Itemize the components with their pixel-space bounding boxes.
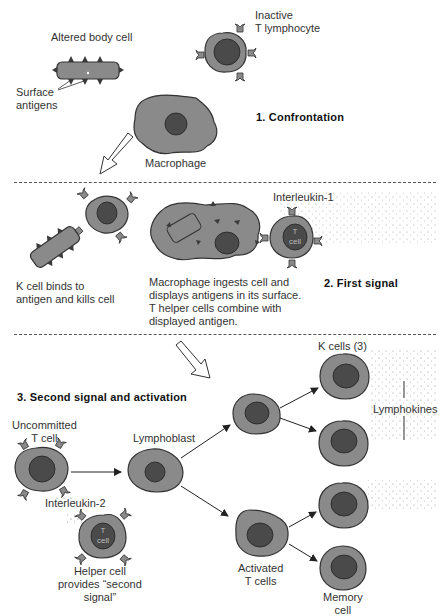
k-cell-3 — [319, 483, 368, 528]
arrow-to-k-cell-1 — [280, 388, 318, 408]
label-surface-antigens: Surface antigens — [16, 86, 58, 112]
altered-body-cell — [52, 56, 124, 85]
memory-cell — [320, 546, 366, 590]
label-activated-t-cells: Activated T cells — [238, 562, 283, 588]
svg-text:T: T — [293, 227, 298, 236]
label-memory-cell: Memory cell — [323, 591, 363, 616]
hollow-arrow-down-left — [100, 133, 133, 174]
svg-text:T: T — [101, 526, 106, 535]
label-uncommitted-t-cell: Uncommitted T cell — [12, 419, 77, 445]
label-inactive-t-lymphocyte: Inactive T lymphocyte — [255, 9, 320, 35]
k-cell-binding — [26, 188, 138, 274]
arrow-down-branch — [181, 486, 228, 516]
k-cell-1 — [320, 354, 369, 399]
lymphoblast — [128, 449, 183, 492]
label-k-cell-kills: K cell binds to antigen and kills cell — [16, 280, 114, 306]
helper-cell-t4: T cell — [75, 508, 132, 566]
label-helper-cell: Helper cell provides “second signal” — [58, 565, 142, 604]
stage-title-second-signal: 3. Second signal and activation — [17, 391, 187, 403]
label-interleukin-1: Interleukin-1 — [273, 191, 334, 204]
lymphokine-spray — [366, 350, 436, 510]
macrophage-ingesting — [151, 201, 260, 260]
svg-text:cell: cell — [97, 536, 109, 545]
stage-divider-2 — [14, 334, 436, 335]
arrow-to-k-cell-3 — [289, 512, 316, 527]
label-macrophage-ingests: Macrophage ingests cell and displays ant… — [149, 276, 301, 328]
stage-divider-1 — [14, 182, 436, 183]
t-cell-activation-diagram: T cell — [0, 0, 444, 616]
label-altered-body-cell: Altered body cell — [51, 31, 132, 44]
svg-text:cell: cell — [289, 237, 301, 246]
uncommitted-t-cell — [15, 438, 70, 501]
label-lymphokines: Lymphokines — [373, 403, 437, 416]
label-interleukin-2: Interleukin-2 — [45, 497, 106, 510]
macrophage — [134, 95, 217, 153]
label-k-cells: K cells (3) — [318, 340, 367, 353]
stage-title-confrontation: 1. Confrontation — [256, 111, 344, 123]
k-cell-2 — [319, 421, 368, 466]
activated-t-cell — [236, 510, 288, 556]
stage-title-first-signal: 2. First signal — [324, 277, 398, 289]
label-macrophage: Macrophage — [145, 157, 206, 170]
intermediate-cell-upper — [233, 394, 280, 434]
arrow-to-k-cell-2 — [280, 418, 316, 431]
hollow-arrow-down-right — [176, 341, 210, 378]
arrow-to-memory-cell — [289, 544, 317, 561]
inactive-t-lymphocyte — [196, 24, 256, 81]
label-lymphoblast: Lymphoblast — [133, 432, 195, 445]
